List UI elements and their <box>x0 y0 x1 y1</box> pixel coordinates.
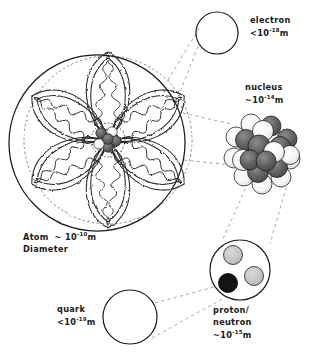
proton-label-line1: proton/ <box>213 305 249 315</box>
electron-label-unit: m <box>280 28 289 38</box>
nucleus-label-exponent: -14 <box>264 94 275 100</box>
proton-label-magnitude: ~10 <box>213 330 232 340</box>
proton-label-line2: neutron <box>213 317 252 327</box>
atom-label-unit: m <box>88 232 97 242</box>
electron-label-magnitude: <10 <box>250 28 269 38</box>
proton-label-exponent: -15 <box>232 329 243 335</box>
atomic-scale-diagram: electron <10-18m nucleus ~10-14m Atom~ 1… <box>0 0 316 364</box>
proton-label-unit: m <box>243 330 252 340</box>
label-proton-neutron: proton/ neutron ~10-15m <box>213 305 252 340</box>
nucleus-label-magnitude: ~10 <box>245 95 264 105</box>
atom-label-name: Atom <box>23 232 49 242</box>
quark-sphere-up-1 <box>224 246 243 265</box>
electron-label-exponent: -18 <box>269 27 280 33</box>
atom-label-diameter: Diameter <box>23 244 69 254</box>
quark-label-exponent: -19 <box>76 316 87 322</box>
atom-label-exponent: -10 <box>77 231 88 237</box>
electron-label-name: electron <box>250 15 291 25</box>
quark-label-unit: m <box>87 317 96 327</box>
quark-label-magnitude: <10 <box>57 317 76 327</box>
nucleus-label-name: nucleus <box>245 82 283 92</box>
quark-label-name: quark <box>57 304 85 314</box>
atom-label-magnitude: ~ 10 <box>55 232 77 242</box>
quark-sphere-up-2 <box>245 267 264 286</box>
quark-sphere-down <box>219 274 238 293</box>
nucleus-label-unit: m <box>275 95 284 105</box>
